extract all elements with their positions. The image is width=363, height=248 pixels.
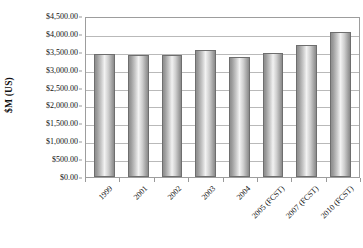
- plot-area: [85, 17, 360, 178]
- y-axis-tick-label: $1,000.00: [46, 138, 78, 146]
- y-axis-tick-label: $2,500.00: [46, 85, 78, 93]
- y-axis-tickmark: [79, 142, 82, 143]
- x-axis-tick-label: 2002: [166, 184, 184, 202]
- y-axis-tickmark: [79, 124, 82, 125]
- x-axis-tick-labels: 199920012002200320042005 (FCST)2007 (FCS…: [85, 182, 360, 246]
- y-axis-title-label: $M (US): [4, 77, 14, 113]
- bar-slot: [223, 18, 257, 177]
- bar[interactable]: [94, 54, 115, 177]
- y-axis-tick-label: $1,500.00: [46, 120, 78, 128]
- bar[interactable]: [330, 32, 351, 177]
- x-axis-tick-label: 2001: [131, 184, 149, 202]
- x-axis-tick-label: 2007 (FCST): [284, 184, 320, 220]
- y-axis-tick-label: $4,500.00: [46, 13, 78, 21]
- x-axis-tick-label: 2003: [200, 184, 218, 202]
- bar[interactable]: [263, 53, 284, 178]
- bar-slot: [155, 18, 189, 177]
- bar[interactable]: [162, 55, 183, 177]
- y-axis-tick-label: $4,000.00: [46, 31, 78, 39]
- bar-slot: [256, 18, 290, 177]
- y-axis-tickmark: [79, 52, 82, 53]
- y-axis-tickmark: [79, 106, 82, 107]
- bar-slot: [323, 18, 357, 177]
- y-axis-tick-label: $500.00: [52, 156, 78, 164]
- bar-chart: $M (US) $4,500.00$4,000.00$3,500.00$3,00…: [0, 0, 363, 248]
- bar-slot: [122, 18, 156, 177]
- y-axis-tick-label: $3,000.00: [46, 67, 78, 75]
- bar-slot: [88, 18, 122, 177]
- y-axis-tickmark: [79, 17, 82, 18]
- y-axis-tickmark: [79, 34, 82, 35]
- bar[interactable]: [128, 55, 149, 177]
- y-axis-tick-label: $3,500.00: [46, 49, 78, 57]
- bar-slot: [290, 18, 324, 177]
- x-axis-tickmark: [360, 178, 361, 182]
- y-axis-tickmark: [79, 178, 82, 179]
- bar[interactable]: [296, 45, 317, 177]
- y-axis-tickmark: [79, 70, 82, 71]
- y-axis-tick-labels: $4,500.00$4,000.00$3,500.00$3,000.00$2,5…: [18, 14, 82, 178]
- x-axis-tick-label: 2005 (FCST): [250, 184, 286, 220]
- y-axis-tick-label: $0.00: [60, 174, 78, 182]
- bar-slot: [189, 18, 223, 177]
- y-axis-tick-label: $2,000.00: [46, 102, 78, 110]
- y-axis-title: $M (US): [0, 0, 18, 190]
- bar[interactable]: [195, 50, 216, 177]
- bar[interactable]: [229, 57, 250, 177]
- x-axis-tick-label: 2010 (FCST): [319, 184, 355, 220]
- x-axis-tick-label: 2004: [234, 184, 252, 202]
- bars-container: [86, 18, 359, 177]
- y-axis-tickmark: [79, 160, 82, 161]
- y-axis-tickmark: [79, 88, 82, 89]
- x-axis-tick-label: 1999: [97, 184, 115, 202]
